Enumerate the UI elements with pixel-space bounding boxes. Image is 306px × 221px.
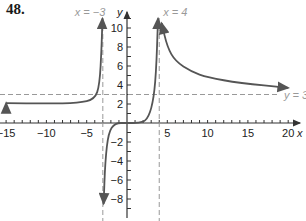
y-tick-label: −6 — [110, 174, 123, 186]
x-tick-label: −10 — [37, 127, 56, 139]
rational-function-graph: y = 3x = −3x = 4−15−10−55101520x−8−6−4−2… — [0, 0, 306, 221]
x-tick-label: −5 — [80, 127, 93, 139]
x-tick-label: −15 — [0, 127, 15, 139]
labels: y = 3x = −3x = 4−15−10−55101520x−8−6−4−2… — [0, 6, 306, 205]
y-tick-label: 2 — [117, 98, 123, 110]
y-tick-label: 8 — [117, 41, 123, 53]
y-tick-label: 4 — [117, 79, 123, 91]
vertical-asymptote-label: x = 4 — [162, 6, 187, 18]
asymptotes — [0, 18, 280, 221]
y-tick-label: −8 — [110, 193, 123, 205]
x-tick-label: 15 — [242, 127, 254, 139]
left-branch — [6, 19, 102, 104]
y-tick-label: 10 — [111, 22, 123, 34]
y-tick-label: −2 — [110, 136, 123, 148]
curves — [6, 19, 288, 204]
x-tick-label: 10 — [201, 127, 213, 139]
right-branch — [162, 23, 289, 88]
y-tick-label: 6 — [117, 60, 123, 72]
x-axis-label: x — [296, 127, 303, 139]
x-tick-label: 20 — [282, 127, 294, 139]
horizontal-asymptote-label: y = 3 — [283, 89, 306, 101]
y-axis-label: y — [116, 6, 124, 18]
y-tick-label: −4 — [110, 155, 123, 167]
x-tick-label: 5 — [164, 127, 170, 139]
vertical-asymptote-label: x = −3 — [74, 6, 106, 18]
axes — [0, 12, 300, 218]
